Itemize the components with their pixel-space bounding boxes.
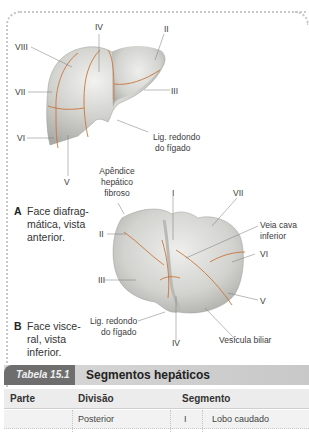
- label-segment-ii-b: II: [99, 229, 104, 239]
- caption-a-text: Face diafrag- mática, vista anterior.: [27, 205, 97, 244]
- caption-b-text: Face visce- ral, vista inferior.: [27, 320, 97, 359]
- column-divider: [202, 410, 203, 432]
- label-segment-iv-a: IV: [95, 22, 103, 32]
- table-number-tab: Tabela 15.1: [4, 365, 75, 385]
- column-divider: [170, 410, 171, 432]
- cell-segmento-nome: Lobo caudado: [212, 410, 269, 429]
- label-segment-i-b: I: [172, 188, 174, 198]
- label-segment-vii-a: VII: [15, 87, 25, 97]
- label-segment-ii-a: II: [164, 24, 169, 34]
- label-lig-redondo-b-line2: do fígado: [101, 327, 136, 337]
- label-segment-v-a: V: [64, 177, 70, 187]
- caption-b: B Face visce- ral, vista inferior.: [14, 320, 104, 365]
- label-segment-vi-b: VI: [260, 249, 268, 259]
- caption-b-letter: B: [14, 320, 22, 333]
- column-divider: [72, 410, 73, 432]
- liver-illustration: [0, 0, 309, 360]
- table-header-segmento: Segmento: [182, 389, 230, 409]
- liver-segments-figure: IV II VIII VII III VI V Lig. redondo do …: [0, 0, 309, 360]
- label-segment-viii-a: VIII: [15, 42, 28, 52]
- label-apendice-line2: hepático: [92, 177, 142, 187]
- label-segment-iii-a: III: [171, 86, 178, 96]
- label-segment-iii-b: III: [98, 275, 105, 285]
- label-apendice-line1: Apêndice: [92, 166, 142, 176]
- table-header-row: Parte Divisão Segmento: [4, 389, 309, 409]
- caption-a-letter: A: [14, 205, 22, 218]
- table-header-divisao: Divisão: [78, 389, 114, 409]
- table-header-parte: Parte: [10, 389, 35, 409]
- label-segment-iv-b: IV: [172, 338, 180, 348]
- liver-anterior-view: [27, 34, 170, 176]
- label-apendice-line3: fibroso: [92, 188, 142, 198]
- table-title: Segmentos hepáticos: [86, 365, 210, 385]
- label-segment-v-b: V: [260, 296, 266, 306]
- label-vesicula-biliar: Vesícula biliar: [219, 335, 271, 345]
- label-lig-redondo-a-line1: Lig. redondo: [153, 132, 200, 142]
- label-veia-cava-line1: Veia cava: [260, 220, 297, 230]
- label-veia-cava-line2: inferior: [260, 231, 286, 241]
- cell-segmento-num: I: [184, 410, 187, 429]
- caption-a: A Face diafrag- mática, vista anterior.: [14, 205, 104, 250]
- label-segment-vii-b: VII: [233, 188, 243, 198]
- label-segment-vi-a: VI: [17, 133, 25, 143]
- table-row: Posterior I Lobo caudado: [4, 410, 309, 429]
- label-lig-redondo-a-line2: do fígado: [155, 143, 190, 153]
- cell-divisao: Posterior: [78, 410, 114, 429]
